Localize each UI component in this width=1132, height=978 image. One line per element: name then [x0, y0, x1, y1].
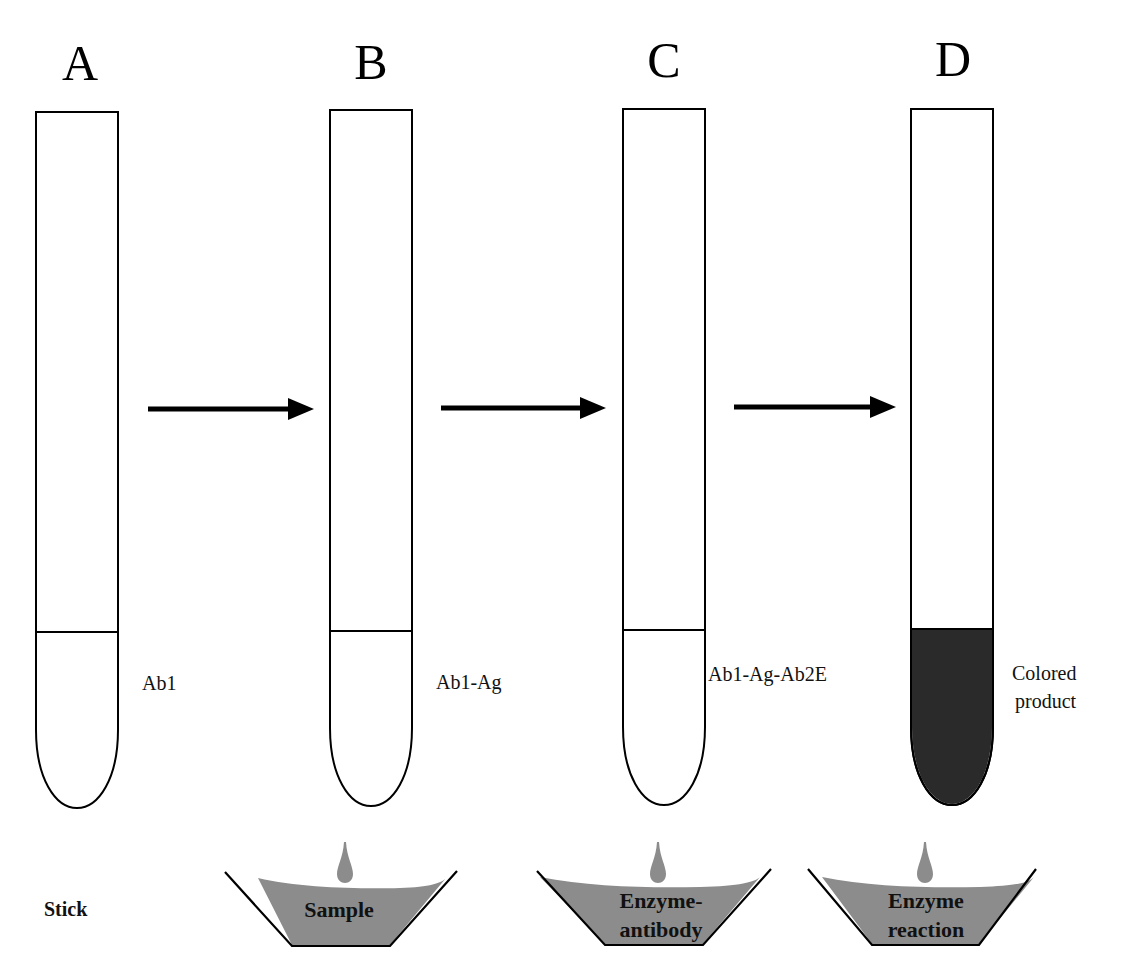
- tube-b: [330, 110, 412, 806]
- arrow-a-to-b: [148, 398, 314, 420]
- trough-enzyme-reaction-label-line1: Enzyme: [888, 888, 964, 913]
- tube-a-label: Ab1: [142, 672, 176, 694]
- drip-c: [650, 842, 666, 883]
- tube-d-colored-product-fill: [912, 629, 992, 804]
- trough-enzyme-antibody-label-line1: Enzyme-: [619, 888, 702, 913]
- trough-enzyme-antibody-label-line2: antibody: [619, 917, 702, 942]
- tube-c-label: Ab1-Ag-Ab2E: [708, 663, 827, 686]
- tube-d: [911, 109, 993, 805]
- tube-c: [623, 109, 705, 805]
- arrow-c-to-d: [734, 396, 896, 418]
- trough-sample: Sample: [225, 871, 457, 946]
- drip-b: [337, 842, 353, 883]
- step-letter-b: B: [354, 34, 387, 90]
- step-letter-c: C: [647, 32, 680, 88]
- tube-d-label-line1: Colored: [1012, 662, 1076, 684]
- elisa-dipstick-diagram: A B C D Ab1 Ab1-Ag Ab1-Ag-Ab2E Colored p…: [0, 0, 1132, 978]
- drip-d: [917, 842, 933, 883]
- step-letter-d: D: [935, 31, 971, 87]
- tube-b-label: Ab1-Ag: [436, 671, 502, 694]
- tube-a-outline: [36, 112, 118, 808]
- trough-enzyme-reaction-label-line2: reaction: [888, 917, 965, 942]
- arrow-b-to-c: [441, 397, 606, 419]
- tube-a: [36, 112, 118, 808]
- tube-c-outline: [623, 109, 705, 805]
- step-letter-a: A: [62, 35, 98, 91]
- trough-sample-label: Sample: [304, 897, 374, 922]
- tube-b-outline: [330, 110, 412, 806]
- stick-label: Stick: [44, 898, 88, 920]
- tube-d-label-line2: product: [1015, 690, 1077, 713]
